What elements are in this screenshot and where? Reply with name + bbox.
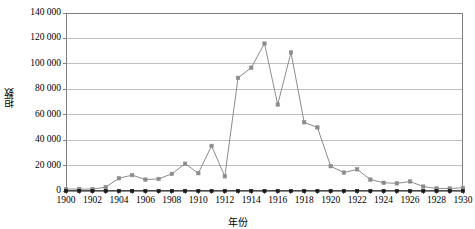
x-tick-label: 1920	[321, 196, 340, 206]
x-tick-label: 1914	[242, 196, 261, 206]
x-axis-tick-labels: 1900190219041906190819101912191419161918…	[0, 0, 475, 229]
x-tick-label: 1918	[295, 196, 314, 206]
x-tick-label: 1906	[136, 196, 155, 206]
x-tick-label: 1924	[374, 196, 393, 206]
x-tick-label: 1916	[268, 196, 287, 206]
x-tick-label: 1912	[215, 196, 234, 206]
x-tick-label: 1902	[83, 196, 102, 206]
x-tick-label: 1910	[189, 196, 208, 206]
x-axis-title: 年份	[0, 218, 475, 228]
x-tick-label: 1926	[401, 196, 420, 206]
x-tick-label: 1930	[454, 196, 473, 206]
x-tick-label: 1922	[348, 196, 367, 206]
x-tick-label: 1908	[162, 196, 181, 206]
x-tick-label: 1928	[427, 196, 446, 206]
x-axis-title-text: 年份	[228, 217, 248, 228]
x-tick-label: 1900	[57, 196, 76, 206]
x-tick-label: 1904	[109, 196, 128, 206]
chart-container: 担数 020 00040 00060 00080 000100 000120 0…	[0, 0, 475, 229]
